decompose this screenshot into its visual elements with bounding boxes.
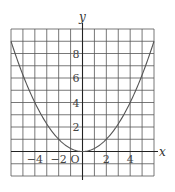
y-tick-label: 8	[73, 48, 80, 61]
y-tick-label: 2	[73, 121, 80, 134]
x-axis-label: x	[159, 145, 166, 159]
tick-labels: −4−2242468	[27, 48, 134, 166]
x-tick-label: 4	[127, 153, 134, 166]
y-tick-label: 6	[73, 72, 80, 85]
origin-label: O	[70, 153, 79, 166]
x-tick-label: −2	[51, 153, 67, 166]
parabola-chart: −4−2242468 x y O	[0, 0, 175, 192]
x-tick-label: −4	[27, 153, 43, 166]
x-tick-label: 2	[103, 153, 110, 166]
y-tick-label: 4	[73, 97, 80, 110]
y-axis-label: y	[78, 10, 86, 24]
